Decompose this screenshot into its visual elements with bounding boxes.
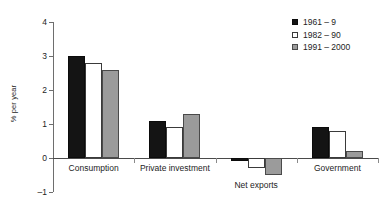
legend: 1961 – 91982 – 901991 – 2000 <box>292 16 350 54</box>
y-tick-mark <box>49 56 53 57</box>
bar <box>329 131 346 158</box>
legend-swatch <box>292 44 298 50</box>
bar <box>231 158 248 161</box>
legend-swatch <box>292 32 298 38</box>
y-tick-label: –1 <box>38 188 47 197</box>
bar <box>346 151 363 158</box>
bar <box>248 158 265 168</box>
y-tick-label: 2 <box>42 86 47 95</box>
legend-label: 1991 – 2000 <box>303 43 350 52</box>
category-divider <box>378 158 379 163</box>
bar <box>166 127 183 158</box>
y-tick-label: 0 <box>42 154 47 163</box>
y-axis-title: % per year <box>6 58 20 148</box>
y-tick-mark <box>49 90 53 91</box>
legend-item: 1961 – 9 <box>292 16 350 29</box>
bar <box>149 121 166 158</box>
category-label: Net exports <box>234 181 277 190</box>
category-divider <box>297 158 298 163</box>
bar <box>85 63 102 158</box>
y-tick-label: 3 <box>42 52 47 61</box>
grouped-bar-chart: % per year –101234 ConsumptionPrivate in… <box>0 0 392 209</box>
bar <box>183 114 200 158</box>
legend-item: 1982 – 90 <box>292 29 350 42</box>
bar <box>102 70 119 158</box>
legend-item: 1991 – 2000 <box>292 41 350 54</box>
category-label: Government <box>314 164 361 173</box>
y-tick-label: 1 <box>42 120 47 129</box>
y-axis-title-text: % per year <box>9 59 18 149</box>
legend-label: 1961 – 9 <box>303 18 336 27</box>
bar <box>68 56 85 158</box>
y-tick-label: 4 <box>42 18 47 27</box>
y-axis-line <box>53 22 54 192</box>
category-label: Private investment <box>140 164 210 173</box>
bar <box>265 158 282 175</box>
y-tick-mark <box>49 22 53 23</box>
y-tick-mark <box>49 192 53 193</box>
legend-label: 1982 – 90 <box>303 31 341 40</box>
category-divider <box>216 158 217 163</box>
category-divider <box>134 158 135 163</box>
y-tick-mark <box>49 158 53 159</box>
bar <box>312 127 329 158</box>
category-label: Consumption <box>69 164 119 173</box>
legend-swatch <box>292 19 298 25</box>
y-tick-mark <box>49 124 53 125</box>
